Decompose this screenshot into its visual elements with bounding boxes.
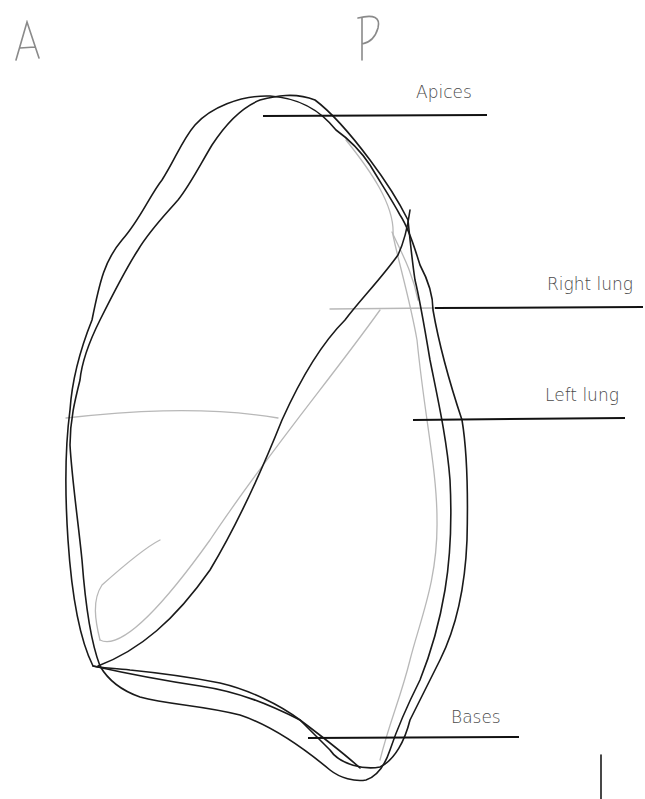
label-apices: Apices [416, 84, 472, 101]
right-lung-leader-line [435, 307, 643, 308]
leader-lines [263, 115, 643, 738]
light-outlines [66, 140, 437, 760]
label-bases: Bases [451, 709, 501, 726]
left-lung-leader-line [413, 418, 625, 420]
bases-leader-line [308, 737, 519, 738]
dark-outlines [66, 95, 601, 799]
lung-diagram: A P [0, 0, 645, 799]
label-left-lung: Left lung [545, 387, 619, 404]
apices-leader-line [263, 115, 487, 116]
label-right-lung: Right lung [547, 276, 633, 293]
